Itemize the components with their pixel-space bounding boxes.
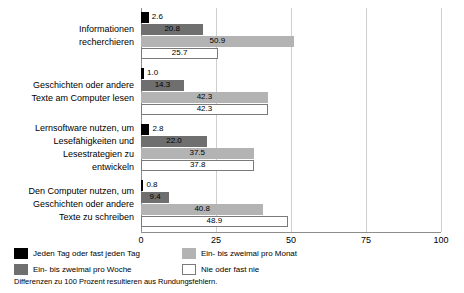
bar-value-label: 0.8 <box>146 179 157 191</box>
bar-row: 0.8 <box>141 180 441 191</box>
light-gray-swatch <box>182 248 196 259</box>
x-axis-line <box>141 232 441 233</box>
bar-row: 2.6 <box>141 12 441 23</box>
category-label: Lernsoftware nutzen, umLesefähigkeiten u… <box>0 122 134 174</box>
bar-row: 48.9 <box>141 216 441 227</box>
category-label-line: Geschichten oder andere <box>0 198 134 211</box>
category-label-line: Lernsoftware nutzen, um <box>0 122 134 135</box>
category-label-line: Lesefähigkeiten und <box>0 135 134 148</box>
legend-item[interactable]: Ein- bis zweimal pro Woche <box>14 264 132 275</box>
category-label-line: Texte zu schreiben <box>0 211 134 224</box>
bar-value-label: 2.6 <box>152 11 163 23</box>
category-label-line: Lesestrategien zu <box>0 148 134 161</box>
bar-value-label: 2.8 <box>152 123 163 135</box>
category-label-line: Geschichten oder andere <box>0 79 134 92</box>
bar-row: 1.0 <box>141 68 441 79</box>
bar-value-label: 20.8 <box>164 23 180 35</box>
x-tick-label: 100 <box>433 234 448 246</box>
bar-value-label: 22.0 <box>166 135 182 147</box>
legend-item[interactable]: Ein- bis zweimal pro Monat <box>182 248 297 259</box>
legend-label: Jeden Tag oder fast jeden Tag <box>33 248 140 259</box>
bar-value-label: 9.4 <box>150 191 161 203</box>
bar-row: 14.3 <box>141 80 441 91</box>
bar-value-label: 40.8 <box>194 203 210 215</box>
bar-row: 37.8 <box>141 160 441 171</box>
category-label-line: Texte am Computer lesen <box>0 92 134 105</box>
bar[interactable] <box>141 12 149 23</box>
bar-row: 25.7 <box>141 48 441 59</box>
bar-row: 22.0 <box>141 136 441 147</box>
legend-label: Ein- bis zweimal pro Woche <box>33 264 132 275</box>
x-tick-label: 50 <box>286 234 296 246</box>
legend-label: Ein- bis zweimal pro Monat <box>201 248 297 259</box>
category-label: Geschichten oder andereTexte am Computer… <box>0 79 134 105</box>
bar-group: 2.620.850.925.7 <box>141 12 441 60</box>
legend-item[interactable]: Nie oder fast nie <box>182 264 259 275</box>
category-label: Informationenrecherchieren <box>0 23 134 49</box>
bar-value-label: 37.5 <box>189 147 205 159</box>
legend-item[interactable]: Jeden Tag oder fast jeden Tag <box>14 248 140 259</box>
bar-value-label: 14.3 <box>155 79 171 91</box>
x-tick-label: 0 <box>138 234 143 246</box>
bar-group: 1.014.342.342.3 <box>141 68 441 116</box>
category-label-line: recherchieren <box>0 36 134 49</box>
bar-group: 2.822.037.537.8 <box>141 124 441 172</box>
bar-row: 9.4 <box>141 192 441 203</box>
plot-area: 2.620.850.925.71.014.342.342.32.822.037.… <box>141 8 441 232</box>
x-tick-label: 25 <box>211 234 221 246</box>
gridline-100 <box>441 8 442 232</box>
bar-row: 37.5 <box>141 148 441 159</box>
category-label-line: Informationen <box>0 23 134 36</box>
bar[interactable] <box>141 68 144 79</box>
white-swatch <box>182 264 196 275</box>
bar-value-label: 25.7 <box>172 47 188 59</box>
category-axis-labels: InformationenrecherchierenGeschichten od… <box>0 8 134 232</box>
black-swatch <box>14 248 28 259</box>
chart-legend: Jeden Tag oder fast jeden TagEin- bis zw… <box>14 248 344 278</box>
category-label-line: entwickeln <box>0 161 134 174</box>
bar[interactable] <box>141 124 149 135</box>
bar-chart: InformationenrecherchierenGeschichten od… <box>0 0 464 293</box>
bar[interactable] <box>141 180 143 191</box>
bar-value-label: 48.9 <box>207 215 223 227</box>
bar-row: 42.3 <box>141 92 441 103</box>
bar-value-label: 50.9 <box>210 35 226 47</box>
x-tick-label: 75 <box>361 234 371 246</box>
bar-row: 40.8 <box>141 204 441 215</box>
bar-row: 2.8 <box>141 124 441 135</box>
bar-value-label: 37.8 <box>190 159 206 171</box>
dark-gray-swatch <box>14 264 28 275</box>
bar-group: 0.89.440.848.9 <box>141 180 441 228</box>
bar-row: 20.8 <box>141 24 441 35</box>
bar-value-label: 1.0 <box>147 67 158 79</box>
category-label-line: Den Computer nutzen, um <box>0 185 134 198</box>
bar-value-label: 42.3 <box>197 91 213 103</box>
bar-value-label: 42.3 <box>197 103 213 115</box>
bar-row: 50.9 <box>141 36 441 47</box>
chart-footnote: Differenzen zu 100 Prozent resultieren a… <box>14 276 217 287</box>
x-axis-tick-labels: 0255075100 <box>141 234 441 248</box>
legend-label: Nie oder fast nie <box>201 264 259 275</box>
category-label: Den Computer nutzen, umGeschichten oder … <box>0 185 134 224</box>
bar-row: 42.3 <box>141 104 441 115</box>
